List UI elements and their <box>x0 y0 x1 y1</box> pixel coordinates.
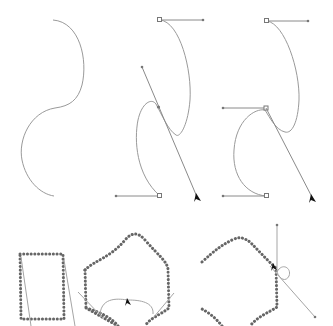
vertical-handle-end[interactable] <box>276 224 279 227</box>
bottom-handle-end[interactable] <box>115 195 118 198</box>
drag-tangent[interactable] <box>142 67 197 197</box>
handle-line-right[interactable] <box>64 260 75 326</box>
panel-5-dotted-hexagon[interactable] <box>78 234 174 326</box>
handle-line-left[interactable] <box>21 257 31 326</box>
top-anchor[interactable] <box>158 18 162 22</box>
left-tangent[interactable] <box>78 292 103 318</box>
panel-2-s-curve-handles[interactable] <box>115 18 205 203</box>
top-handle-end[interactable] <box>202 19 205 22</box>
top-anchor[interactable] <box>265 19 269 23</box>
top-handle-end[interactable] <box>307 20 310 23</box>
panel-6-dotted-hexagon[interactable] <box>200 224 316 326</box>
arrow-cursor-icon <box>194 193 201 202</box>
drag-tangent[interactable] <box>266 108 313 199</box>
tangent-start[interactable] <box>141 66 144 69</box>
mid-anchor[interactable] <box>157 105 160 108</box>
bottom-anchor[interactable] <box>265 194 269 198</box>
right-tangent[interactable] <box>153 293 174 318</box>
bottom-anchor[interactable] <box>158 194 162 198</box>
loop-curve[interactable] <box>277 267 290 280</box>
arrow-cursor-icon <box>125 298 131 306</box>
panel-4-dotted-rectangle[interactable] <box>20 254 75 326</box>
bezier-illustration <box>0 0 333 326</box>
panel-1-s-curve <box>21 20 84 196</box>
diagonal-handle-end[interactable] <box>314 316 317 319</box>
bottom-handle-end[interactable] <box>222 195 225 198</box>
arrow-cursor-icon <box>309 194 316 203</box>
mid-handle-end[interactable] <box>222 107 225 110</box>
panel-3-s-curve-corner[interactable] <box>222 19 316 204</box>
